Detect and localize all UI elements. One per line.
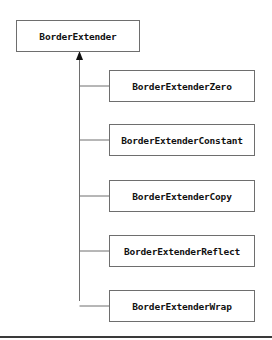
class-box-child: BorderExtenderReflect bbox=[109, 235, 255, 267]
class-box-child: BorderExtenderConstant bbox=[109, 124, 255, 156]
class-box-child: BorderExtenderCopy bbox=[109, 180, 255, 212]
class-label: BorderExtenderCopy bbox=[132, 191, 231, 202]
class-label: BorderExtenderZero bbox=[132, 81, 231, 92]
class-label: BorderExtenderConstant bbox=[121, 135, 242, 146]
class-label: BorderExtender bbox=[39, 31, 116, 42]
class-label: BorderExtenderWrap bbox=[132, 301, 231, 312]
inheritance-arrowhead-icon bbox=[76, 51, 83, 60]
class-label: BorderExtenderReflect bbox=[124, 246, 240, 257]
class-box-child: BorderExtenderZero bbox=[109, 70, 255, 102]
class-box-root: BorderExtender bbox=[16, 20, 140, 52]
bottom-divider bbox=[0, 336, 272, 338]
class-box-child: BorderExtenderWrap bbox=[109, 290, 255, 322]
